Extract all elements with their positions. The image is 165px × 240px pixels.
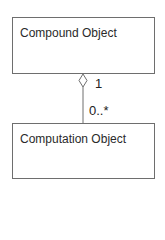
multiplicity-whole: 1: [95, 76, 102, 91]
class-computation-object[interactable]: Computation Object: [12, 123, 155, 179]
class-name-computation-object: Computation Object: [20, 132, 126, 146]
multiplicity-part: 0..*: [89, 103, 109, 118]
aggregation-diamond-icon: [79, 74, 87, 87]
